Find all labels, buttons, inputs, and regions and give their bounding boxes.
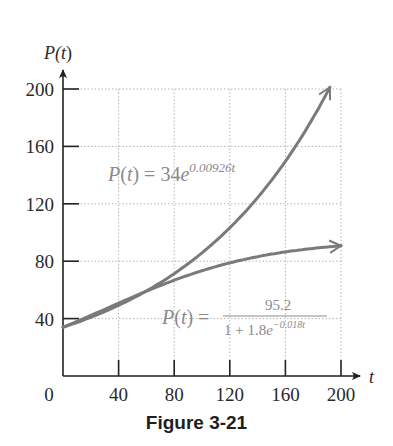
- x-tick-label: 80: [165, 384, 184, 405]
- axis-ticks: [63, 89, 341, 376]
- x-tick-label: 40: [109, 384, 128, 405]
- exponential-equation: P(t) = 34e0.00926t: [107, 160, 236, 186]
- y-tick-label: 200: [26, 79, 55, 100]
- x-axis-label: t: [369, 367, 375, 387]
- x-tick-label: 200: [327, 384, 356, 405]
- exponential-curve: [63, 87, 330, 327]
- y-tick-label: 120: [26, 194, 55, 215]
- logistic-denominator: 1 + 1.8e−0.018t: [224, 319, 305, 338]
- y-tick-label: 40: [35, 309, 54, 330]
- y-tick-label: 160: [26, 136, 55, 157]
- gridlines: [63, 89, 341, 376]
- chart: 040801201602004080120160200 P(t) t P(t) …: [0, 0, 393, 446]
- logistic-equation: P(t) = 95.2 1 + 1.8e−0.018t: [161, 297, 327, 338]
- svg-text:P(t) =: P(t) =: [161, 306, 209, 329]
- curves: [63, 87, 341, 327]
- x-tick-label: 0: [44, 384, 54, 405]
- figure-caption: Figure 3-21: [0, 412, 393, 434]
- x-tick-label: 160: [271, 384, 300, 405]
- x-tick-label: 120: [216, 384, 245, 405]
- logistic-numerator: 95.2: [265, 297, 291, 313]
- y-tick-label: 80: [35, 251, 54, 272]
- y-axis-label: P(t): [43, 43, 72, 64]
